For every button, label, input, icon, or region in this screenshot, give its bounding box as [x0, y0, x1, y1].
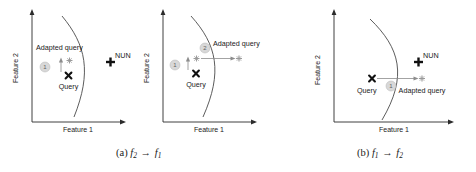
- y-axis-label: Feature 2: [314, 55, 321, 85]
- caption-b-arrow: →: [381, 147, 394, 158]
- caption-a-prefix: (a): [116, 147, 128, 158]
- y-axis-label: Feature 2: [143, 53, 150, 83]
- adaptation-arrow-head: [59, 58, 63, 63]
- y-axis-arrowhead: [161, 9, 166, 15]
- decision-boundary-curve: [62, 16, 84, 117]
- x-axis-arrowhead: [251, 120, 257, 125]
- caption-a-to-sub: 1: [158, 151, 162, 160]
- intermediate-query-marker: [194, 56, 200, 62]
- nun-label: NUN: [423, 51, 439, 60]
- step-badge-1: 1: [170, 60, 180, 70]
- step2-arrow-head: [231, 56, 236, 60]
- y-axis-label: Feature 2: [12, 53, 19, 83]
- adapted-query-marker: [419, 76, 425, 82]
- nun-marker: [106, 58, 115, 67]
- x-axis-arrowhead: [448, 120, 454, 125]
- panel-a-right-plot: 1 2: [133, 0, 278, 138]
- caption-a-arrow: →: [140, 147, 153, 158]
- step1-arrow-head: [186, 57, 190, 62]
- step-badge-2: 2: [200, 43, 210, 53]
- x-axis-arrowhead: [120, 120, 126, 125]
- query-label: Query: [186, 80, 206, 89]
- adapted-query-label: Adapted query: [36, 43, 83, 52]
- adapted-query-marker: [236, 56, 242, 62]
- step-badge-1: 1: [40, 62, 50, 72]
- query-label: Query: [59, 82, 79, 91]
- adapted-query-label: Adapted query: [213, 39, 260, 48]
- panel-a-left-plot: 1 Adapted query Query: [0, 0, 133, 138]
- panel-a-left: 1 Adapted query Query: [0, 0, 133, 138]
- caption-b: (b) f1 → f2: [357, 147, 403, 160]
- panel-b-plot: Query 1 Adapted query NUN: [290, 0, 476, 138]
- x-axis-label: Feature 1: [63, 126, 93, 133]
- caption-b-from-sub: 1: [375, 151, 379, 160]
- y-axis-arrowhead: [30, 9, 35, 15]
- x-axis-label: Feature 1: [194, 126, 224, 133]
- caption-b-prefix: (b): [357, 147, 369, 158]
- y-axis-arrowhead: [332, 9, 337, 15]
- caption-a-from-sub: 2: [133, 151, 137, 160]
- nun-marker: [414, 58, 423, 67]
- query-marker: [193, 71, 199, 77]
- adaptation-arrow-head: [414, 76, 419, 80]
- query-marker: [369, 76, 375, 82]
- query-label: Query: [357, 86, 377, 95]
- figure-container: 1 Adapted query Query: [0, 0, 476, 172]
- step-badge-1: 1: [386, 81, 396, 91]
- adapted-query-marker: [67, 58, 73, 64]
- adapted-query-label: Adapted query: [399, 86, 446, 95]
- decision-boundary-curve: [191, 16, 215, 117]
- caption-a: (a) f2 → f1: [116, 147, 161, 160]
- nun-label: NUN: [115, 51, 131, 60]
- panel-a-right: 1 2: [133, 0, 278, 138]
- x-axis-label: Feature 1: [379, 126, 409, 133]
- caption-b-to-sub: 2: [399, 151, 403, 160]
- query-marker: [66, 73, 72, 79]
- decision-boundary-curve: [370, 19, 398, 120]
- panel-b: Query 1 Adapted query NUN: [290, 0, 476, 138]
